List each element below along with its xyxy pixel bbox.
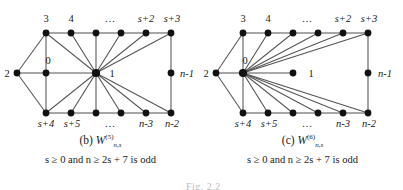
figure-row: 3 4 … s+2 s+3 s+4 s+5 … n-3 n-2 2 0 1 n-…: [0, 0, 403, 190]
figure-panel-b: 3 4 … s+2 s+3 s+4 s+5 … n-3 n-2 2 0 1 n-…: [0, 0, 201, 190]
node-label-inner: 0: [45, 55, 50, 66]
node-label-top-4: s+2: [138, 13, 155, 24]
node-label-bottom-1: s+5: [261, 118, 277, 129]
node-label-bottom-0: s+4: [38, 118, 55, 129]
panel-caption-prefix-c: (c): [282, 134, 295, 146]
node-label-top-1: 4: [265, 13, 271, 24]
node-label-bottom-5: n-2: [165, 118, 180, 129]
node-label-bottom-4: n-3: [139, 118, 153, 129]
node-label-center: 1: [308, 68, 313, 79]
node-label-center: 1: [109, 68, 114, 79]
node-label-bottom-2: …: [302, 118, 313, 129]
graph-symbol-c: W: [297, 134, 307, 146]
panel-caption-c: (c) W(6)n,s: [202, 133, 403, 149]
node-label-top-0: 3: [240, 13, 245, 24]
node-label-bottom-0: s+4: [235, 118, 252, 129]
graph-diagram-b: 3 4 … s+2 s+3 s+4 s+5 … n-3 n-2 2 0 1 n-…: [0, 0, 201, 133]
node-label-top-2: …: [105, 13, 116, 24]
node-label-top-5: s+3: [361, 13, 377, 24]
node-label-bottom-5: n-2: [362, 118, 377, 129]
node-label-right: n-1: [378, 68, 392, 79]
graph-symbol-b: W: [96, 134, 106, 146]
graph-diagram-c: 3 4 … s+2 s+3 s+4 s+5 … n-3 n-2 2 0 1 n-…: [202, 0, 403, 133]
node-label-top-1: 4: [68, 13, 74, 24]
graph-superscript-b: (5): [105, 133, 113, 141]
node-label-top-5: s+3: [164, 13, 180, 24]
node-label-bottom-1: s+5: [64, 118, 80, 129]
node-label-bottom-4: n-3: [336, 118, 350, 129]
node-label-right: n-1: [180, 68, 194, 79]
graph-subscript-c: n,s: [315, 141, 323, 149]
figure-number-cutoff: Fig. 2.2: [186, 181, 221, 190]
node-label-left: 2: [4, 68, 9, 79]
panel-condition-c: s ≥ 0 and n ≥ 2s + 7 is odd: [202, 154, 403, 165]
graph-subscript-b: n,s: [114, 141, 122, 149]
node-label-top-0: 3: [43, 13, 48, 24]
node-label-inner: 0: [242, 55, 247, 66]
panel-caption-b: (b) W(5)n,s: [0, 133, 201, 149]
node-label-left: 2: [203, 68, 208, 79]
graph-superscript-c: (6): [307, 133, 315, 141]
panel-condition-b: s ≥ 0 and n ≥ 2s + 7 is odd: [0, 154, 201, 165]
panel-caption-prefix-b: (b): [79, 134, 92, 146]
figure-panel-c: 3 4 … s+2 s+3 s+4 s+5 … n-3 n-2 2 0 1 n-…: [202, 0, 403, 190]
node-label-top-2: …: [302, 13, 313, 24]
node-label-top-4: s+2: [335, 13, 352, 24]
node-label-bottom-2: …: [105, 118, 116, 129]
